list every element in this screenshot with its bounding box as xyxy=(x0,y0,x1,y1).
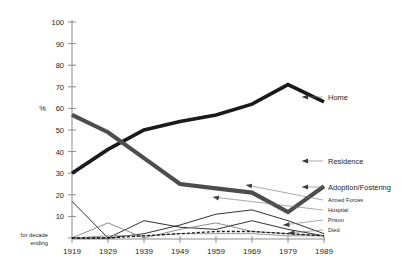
chart-container: 100 90 80 70 60 50 40 30 20 10 % 1919 19… xyxy=(0,0,401,270)
y-tick-30: 30 xyxy=(56,169,64,178)
x-axis-note-line2: ending xyxy=(31,240,48,246)
series-path-home xyxy=(72,85,324,174)
series-label-prison: Prison xyxy=(328,217,344,223)
y-tick-90: 90 xyxy=(56,40,64,49)
series-label-hospital: Hospital xyxy=(328,207,348,213)
x-tick-1929: 1929 xyxy=(99,247,117,256)
y-tick-80: 80 xyxy=(56,61,64,70)
x-tick-1949: 1949 xyxy=(171,247,189,256)
series-label-home: Home xyxy=(328,93,348,102)
y-tick-40: 40 xyxy=(56,148,64,157)
x-tick-1989: 1989 xyxy=(315,247,333,256)
series-label-adoption: Adoption/Fostering xyxy=(328,183,391,192)
series-label-armed-forces: Armed Forces xyxy=(328,197,363,203)
leader-lines xyxy=(213,95,323,236)
series-label-died: Died xyxy=(328,227,340,233)
series-label-residence: Residence xyxy=(328,157,363,166)
x-tick-1939: 1939 xyxy=(135,247,153,256)
y-tick-70: 70 xyxy=(56,83,64,92)
x-tick-1979: 1979 xyxy=(279,247,297,256)
y-axis-unit-label: % xyxy=(39,104,46,113)
y-tick-20: 20 xyxy=(56,191,64,200)
y-tick-60: 60 xyxy=(56,104,64,113)
x-tick-1969: 1969 xyxy=(243,247,261,256)
line-chart: 100 90 80 70 60 50 40 30 20 10 % 1919 19… xyxy=(0,0,401,270)
y-tick-50: 50 xyxy=(56,126,64,135)
x-axis-note-line1: for decade xyxy=(21,232,48,238)
series-path-residence xyxy=(72,115,324,212)
x-tick-1959: 1959 xyxy=(207,247,225,256)
y-tick-100: 100 xyxy=(51,18,64,27)
x-tick-1919: 1919 xyxy=(63,247,81,256)
y-tick-10: 10 xyxy=(56,212,64,221)
series-layer xyxy=(72,85,324,238)
